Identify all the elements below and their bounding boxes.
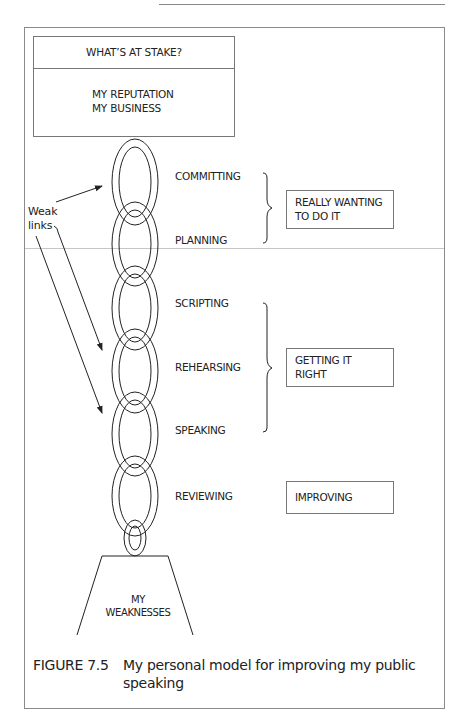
group-line: REALLY WANTING xyxy=(295,196,393,210)
stake-body: MY REPUTATION MY BUSINESS xyxy=(92,88,174,115)
pedestal-line-2: WEAKNESSES xyxy=(90,606,186,619)
group-line: TO DO IT xyxy=(295,210,393,224)
weak-links-label: Weak links xyxy=(28,205,57,233)
group-really-wanting: REALLY WANTING TO DO IT xyxy=(286,190,394,229)
stake-line-reputation: MY REPUTATION xyxy=(92,88,174,102)
stage-reviewing: REVIEWING xyxy=(175,490,233,502)
pedestal-line-1: MY xyxy=(90,593,186,606)
group-improving: IMPROVING xyxy=(286,481,394,514)
chain-link-small xyxy=(124,520,146,556)
stake-title: WHAT’S AT STAKE? xyxy=(34,37,234,69)
stage-scripting: SCRIPTING xyxy=(175,297,229,309)
brace-getting-it-right xyxy=(263,303,272,432)
group-line: IMPROVING xyxy=(295,491,393,505)
whats-at-stake-box: WHAT’S AT STAKE? MY REPUTATION MY BUSINE… xyxy=(33,36,235,137)
weak-label-line-1: Weak xyxy=(28,205,57,219)
pedestal-label: MY WEAKNESSES xyxy=(90,593,186,619)
figure-caption-text: My personal model for improving my publi… xyxy=(123,656,443,692)
stage-committing: COMMITTING xyxy=(175,170,241,182)
stage-planning: PLANNING xyxy=(175,234,227,246)
stage-rehearsing: REHEARSING xyxy=(175,361,241,373)
stake-line-business: MY BUSINESS xyxy=(92,102,174,116)
group-line: RIGHT xyxy=(295,368,393,382)
stage-speaking: SPEAKING xyxy=(175,424,225,436)
group-getting-it-right: GETTING IT RIGHT xyxy=(286,348,394,387)
weak-label-line-2: links xyxy=(28,219,57,233)
group-line: GETTING IT xyxy=(295,354,393,368)
figure-number: FIGURE 7.5 xyxy=(33,656,109,674)
